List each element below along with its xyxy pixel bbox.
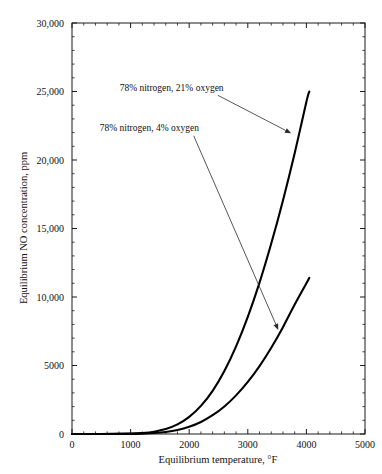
chart-background bbox=[0, 0, 382, 474]
x-tick-label: 1000 bbox=[121, 439, 141, 450]
x-tick-label: 0 bbox=[70, 439, 75, 450]
x-tick-label: 4000 bbox=[296, 439, 316, 450]
y-tick-label: 0 bbox=[59, 429, 64, 440]
x-tick-label: 3000 bbox=[238, 439, 258, 450]
annotation-label-1: 78% nitrogen, 4% oxygen bbox=[100, 123, 199, 133]
y-tick-label: 10,000 bbox=[37, 292, 65, 303]
x-tick-label: 5000 bbox=[355, 439, 375, 450]
x-tick-label: 2000 bbox=[179, 439, 199, 450]
equilibrium-no-chart: 0100020003000400050000500010,00015,00020… bbox=[0, 0, 382, 474]
y-tick-label: 5000 bbox=[44, 360, 64, 371]
y-axis-title: Equilibrium NO concentration, ppm bbox=[18, 152, 29, 304]
annotation-label-0: 78% nitrogen, 21% oxygen bbox=[120, 83, 224, 93]
y-tick-label: 20,000 bbox=[37, 155, 65, 166]
chart-page: 0100020003000400050000500010,00015,00020… bbox=[0, 0, 382, 474]
y-tick-label: 30,000 bbox=[37, 18, 65, 29]
x-axis-title: Equilibrium temperature, °F bbox=[159, 454, 278, 465]
y-tick-label: 15,000 bbox=[37, 223, 65, 234]
y-tick-label: 25,000 bbox=[37, 86, 65, 97]
